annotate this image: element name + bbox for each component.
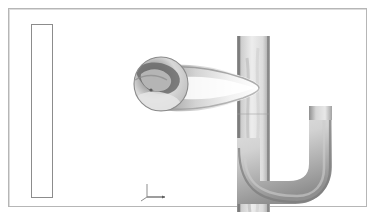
cfd-contour-viewport	[0, 0, 373, 222]
colour-scale-bar	[31, 24, 53, 198]
axis-triad-indicator	[137, 179, 171, 205]
colour-scale-labels	[61, 18, 119, 202]
plot-window-frame	[8, 8, 367, 207]
outlet-riser-region	[309, 106, 332, 120]
contour-colour-legend	[23, 18, 119, 202]
circular-bulb-region	[134, 57, 188, 111]
axis-triad-icon	[137, 179, 171, 205]
